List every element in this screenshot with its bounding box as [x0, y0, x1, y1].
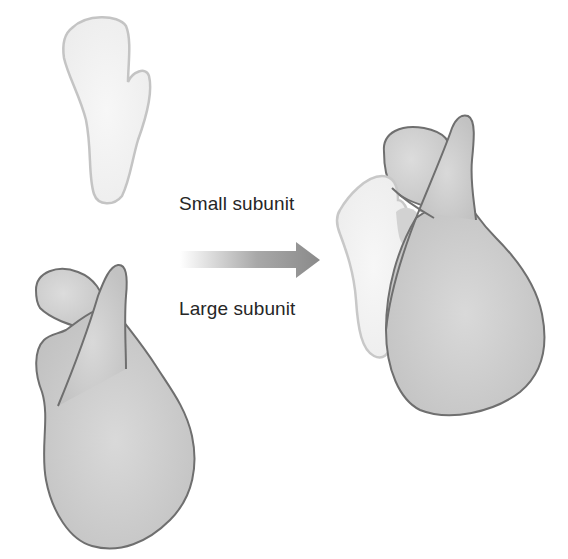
small-subunit-separate	[63, 17, 150, 203]
large-subunit-separate	[36, 265, 194, 549]
large-subunit-label: Large subunit	[179, 298, 295, 320]
ribosome-diagram	[0, 0, 568, 559]
small-subunit-label: Small subunit	[179, 193, 294, 215]
assembled-ribosome	[337, 116, 544, 416]
assembly-arrow	[180, 242, 320, 278]
